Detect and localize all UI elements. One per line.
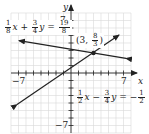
x-min-tick-label: −7 [12, 77, 25, 86]
y-min-tick-label: −7 [55, 121, 68, 130]
x-axis-label: x [138, 77, 143, 86]
x-max-tick-label: 7 [121, 77, 127, 86]
intersection-point [91, 51, 95, 55]
equation-2-label: 12x − 34y = −12 [76, 90, 146, 105]
intersection-label: (3, 83) [75, 33, 104, 48]
equation-1-label: 18x + 34y = 198 [3, 20, 72, 35]
y-axis-label: y [63, 3, 68, 12]
